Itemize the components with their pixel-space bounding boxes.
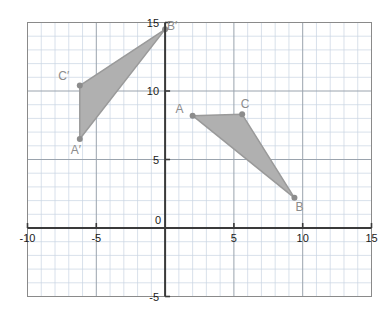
triangle-polygon — [193, 114, 295, 198]
vertex-label: C′ — [58, 69, 70, 83]
vertex-dot — [239, 111, 245, 117]
x-axis-tick-label: 0 — [155, 214, 161, 226]
vertex-dot — [77, 136, 83, 142]
coordinate-plane-figure: -10-505101515105-5ABCA′B′C′ — [0, 0, 384, 317]
vertex-dot — [190, 113, 196, 119]
y-axis-tick-label: -5 — [149, 291, 159, 303]
y-axis-tick-label: 5 — [153, 154, 159, 166]
x-axis-tick-label: 15 — [365, 232, 377, 244]
x-axis-tick-label: -5 — [91, 232, 101, 244]
vertex-dot — [77, 83, 83, 89]
vertex-label: A′ — [71, 143, 82, 157]
vertex-label: A — [176, 102, 184, 116]
vertex-label: C — [241, 97, 250, 111]
coordinate-plane-svg: -10-505101515105-5ABCA′B′C′ — [0, 0, 384, 317]
y-axis-tick-label: 15 — [147, 17, 159, 29]
y-axis-tick-label: 10 — [147, 85, 159, 97]
vertex-label: B′ — [167, 19, 178, 33]
vertex-label: B — [295, 200, 303, 214]
x-axis-tick-label: 5 — [231, 232, 237, 244]
x-axis-tick-label: 10 — [297, 232, 309, 244]
x-axis-tick-label: -10 — [20, 232, 36, 244]
